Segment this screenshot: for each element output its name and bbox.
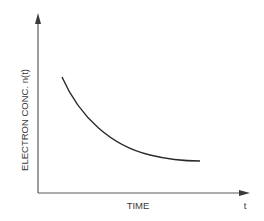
decay-diagram: ELECTRON CONC. n(t) TIME t: [0, 0, 264, 221]
x-axis-label: TIME: [127, 200, 150, 211]
decay-curve: [62, 77, 200, 161]
x-axis-arrowhead-icon: [239, 190, 250, 196]
y-axis-arrowhead-icon: [35, 13, 41, 24]
y-axis-label: ELECTRON CONC. n(t): [19, 69, 30, 171]
x-axis-end-label: t: [244, 200, 247, 211]
